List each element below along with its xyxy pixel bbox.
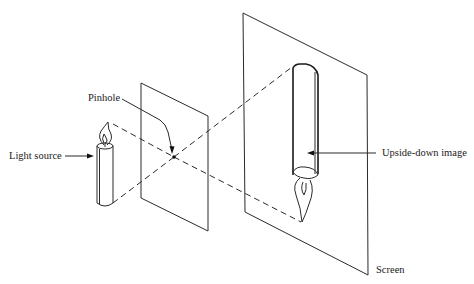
screen-label: Screen bbox=[376, 265, 405, 276]
outgoing-rays bbox=[174, 67, 301, 222]
pinhole-arrow bbox=[122, 99, 175, 154]
inverted-candle-image bbox=[293, 64, 318, 222]
candle-icon bbox=[97, 122, 113, 206]
screen-plane bbox=[243, 13, 368, 275]
light-source-arrow bbox=[65, 154, 94, 159]
incoming-rays bbox=[113, 124, 174, 203]
light-source-label: Light source bbox=[9, 151, 62, 162]
pinhole-camera-diagram bbox=[0, 0, 474, 284]
pinhole-label: Pinhole bbox=[88, 93, 120, 104]
pinhole-dot bbox=[172, 155, 176, 159]
upside-down-image-label: Upside-down image bbox=[382, 148, 467, 159]
